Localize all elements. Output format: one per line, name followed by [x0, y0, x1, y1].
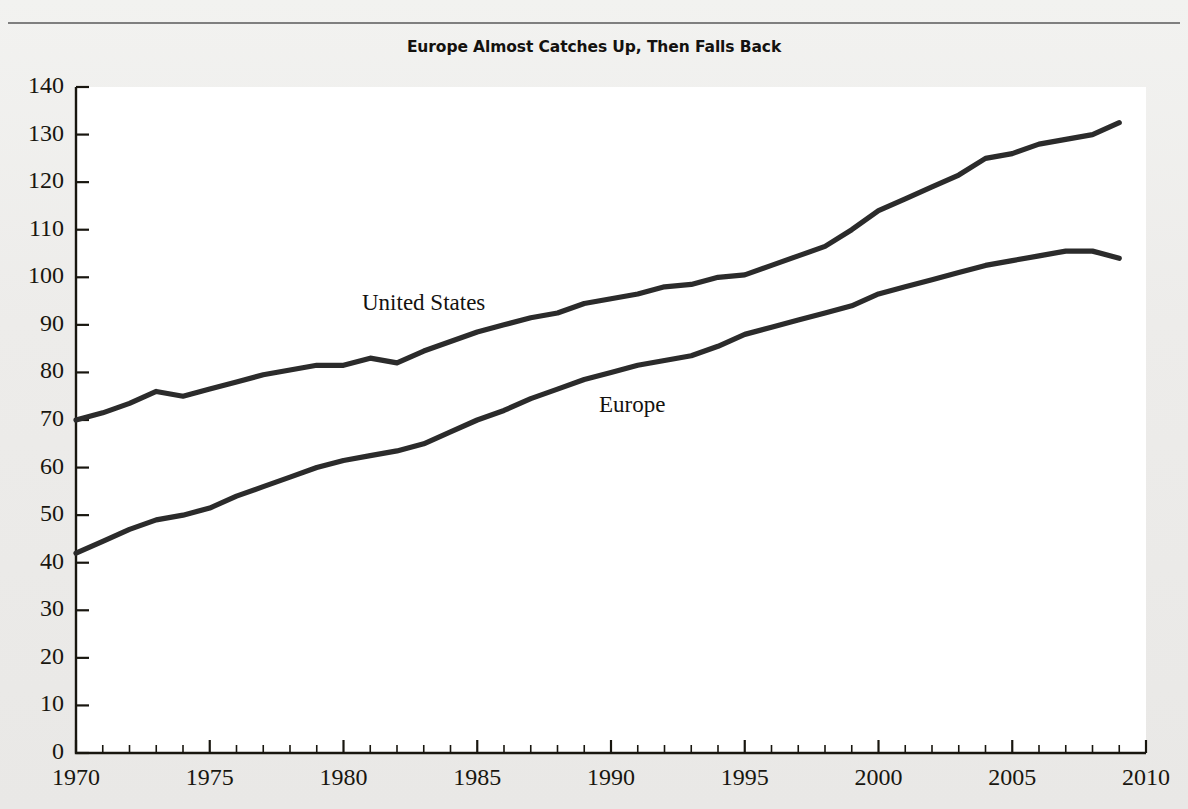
- y-tick-label: 80: [2, 357, 64, 384]
- x-tick-label: 1995: [700, 764, 790, 791]
- x-tick-label: 2000: [834, 764, 924, 791]
- axis-major-ticks: [76, 87, 1146, 753]
- y-tick-label: 140: [2, 72, 64, 99]
- figure-page: Europe Almost Catches Up, Then Falls Bac…: [0, 0, 1188, 809]
- y-tick-label: 20: [2, 643, 64, 670]
- data-series-lines: [76, 123, 1119, 554]
- y-tick-label: 10: [2, 690, 64, 717]
- chart-axes: [76, 87, 1146, 753]
- y-tick-label: 120: [2, 167, 64, 194]
- x-tick-label: 2010: [1101, 764, 1188, 791]
- y-tick-label: 70: [2, 405, 64, 432]
- series-label-united-states: United States: [362, 290, 485, 316]
- series-label-europe: Europe: [599, 392, 665, 418]
- y-tick-label: 90: [2, 310, 64, 337]
- y-tick-label: 60: [2, 453, 64, 480]
- x-tick-label: 1970: [31, 764, 121, 791]
- y-tick-label: 30: [2, 595, 64, 622]
- y-tick-label: 40: [2, 548, 64, 575]
- y-tick-label: 130: [2, 120, 64, 147]
- x-tick-label: 1990: [566, 764, 656, 791]
- x-tick-label: 1980: [299, 764, 389, 791]
- x-tick-label: 1985: [432, 764, 522, 791]
- y-tick-label: 50: [2, 500, 64, 527]
- x-tick-label: 1975: [165, 764, 255, 791]
- y-tick-label: 0: [2, 738, 64, 765]
- y-tick-label: 110: [2, 215, 64, 242]
- line-chart: [0, 0, 1188, 809]
- y-tick-label: 100: [2, 262, 64, 289]
- x-tick-label: 2005: [967, 764, 1057, 791]
